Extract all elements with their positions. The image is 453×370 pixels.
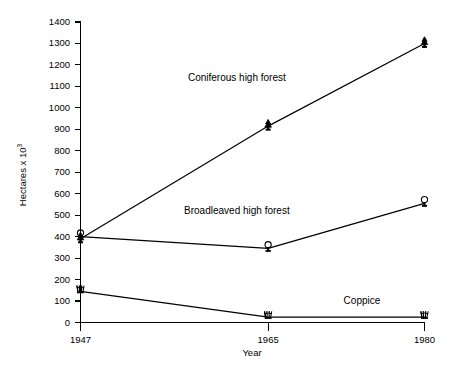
x-axis-title: Year xyxy=(242,347,261,358)
y-tick-label: 300 xyxy=(54,252,70,263)
series-label-2: Broadleaved high forest xyxy=(184,205,290,216)
y-tick-label: 1100 xyxy=(50,80,70,91)
x-tick-label: 1947 xyxy=(70,334,91,345)
y-tick-label: 700 xyxy=(54,166,70,177)
series-label-3: Coppice xyxy=(344,295,381,306)
broadleaf-tree-icon xyxy=(265,242,271,252)
y-tick-label: 400 xyxy=(54,231,70,242)
y-axis-title-exponent: 3 xyxy=(16,144,23,148)
y-tick-label: 1200 xyxy=(49,59,70,70)
x-tick-label: 1980 xyxy=(414,334,435,345)
y-tick-label: 1000 xyxy=(49,102,70,113)
y-tick-label: 600 xyxy=(54,188,70,199)
broadleaf-tree-icon xyxy=(421,197,427,207)
y-tick-label: 100 xyxy=(54,295,70,306)
line-chart: 1400130012001100100090080070060050040030… xyxy=(0,0,453,370)
x-tick-label: 1965 xyxy=(258,334,279,345)
series-label-1: Coniferous high forest xyxy=(188,72,286,83)
y-tick-label: 800 xyxy=(54,145,70,156)
y-axis-ticks: 1400130012001100100090080070060050040030… xyxy=(49,16,81,328)
chart-container: 1400130012001100100090080070060050040030… xyxy=(0,0,453,370)
y-tick-label: 1300 xyxy=(49,37,70,48)
y-tick-label: 900 xyxy=(54,123,70,134)
y-axis: 1400130012001100100090080070060050040030… xyxy=(16,16,81,328)
svg-text:Hectares x 103: Hectares x 103 xyxy=(16,144,28,207)
y-axis-title: Hectares x 103 xyxy=(16,144,28,207)
x-axis-ticks: 194719651980 xyxy=(70,323,435,346)
coppice-shrub-icon xyxy=(421,311,428,319)
coppice-shrub-icon xyxy=(265,311,272,319)
series-labels: Coniferous high forestBroadleaved high f… xyxy=(184,72,381,306)
y-tick-label: 200 xyxy=(54,274,70,285)
y-tick-label: 1400 xyxy=(49,16,70,27)
x-axis: 194719651980 Year xyxy=(70,323,435,359)
y-tick-label: 0 xyxy=(65,317,70,328)
y-axis-title-text: Hectares x 10 xyxy=(17,148,28,207)
conifer-tree-icon xyxy=(421,37,428,48)
y-tick-label: 500 xyxy=(54,209,70,220)
